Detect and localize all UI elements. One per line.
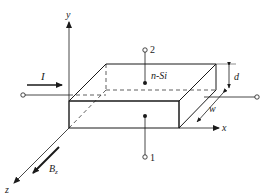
- current-arrow: I: [27, 70, 62, 85]
- current-label: I: [40, 70, 46, 82]
- z-axis: z: [4, 128, 69, 195]
- x-axis-label: x: [221, 122, 227, 133]
- contact-1-label: 1: [150, 152, 155, 163]
- current-lead-right: [204, 95, 259, 99]
- y-axis: y: [65, 9, 71, 128]
- width-label: w: [209, 103, 216, 114]
- x-axis: x: [179, 122, 227, 133]
- n-si-bar: [69, 64, 216, 128]
- material-label: n-Si: [151, 70, 167, 81]
- current-lead-left: [21, 93, 69, 97]
- thickness-label: d: [234, 71, 240, 82]
- thickness-dimension: d: [216, 64, 240, 88]
- z-axis-label: z: [4, 184, 9, 195]
- contact-1: 1: [143, 114, 155, 163]
- contact-2-label: 2: [150, 44, 155, 55]
- hall-effect-diagram: y x z n-Si: [0, 0, 271, 196]
- field-label: Bz: [49, 163, 58, 176]
- y-axis-label: y: [65, 9, 71, 20]
